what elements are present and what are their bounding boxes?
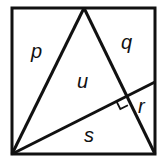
right-angle-marker — [117, 101, 128, 109]
label-p: p — [30, 40, 42, 62]
triangle-left-side — [12, 8, 84, 154]
label-u: u — [77, 70, 88, 92]
label-r: r — [138, 95, 146, 117]
triangle-right-side — [84, 8, 155, 154]
label-q: q — [121, 31, 132, 53]
label-s: s — [84, 124, 94, 146]
geometry-diagram: p q u r s — [0, 0, 166, 161]
